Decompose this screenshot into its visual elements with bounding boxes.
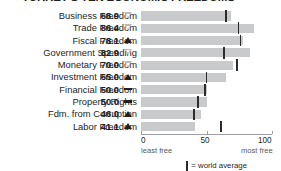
world-average-marker: [197, 96, 199, 108]
score-bar: [141, 11, 231, 20]
row-score-value: 86.4: [99, 22, 119, 34]
chart-row: Business Freedom68.9: [0, 10, 281, 22]
trend-down-icon: [122, 10, 134, 22]
chart-row: Financial Freedom50.0: [0, 84, 281, 96]
world-average-marker: [223, 47, 225, 59]
row-score-value: 78.1: [99, 35, 119, 47]
axis-tick-label: 0: [141, 136, 146, 145]
axis-tick-mark: [141, 131, 142, 135]
world-average-marker: [204, 84, 206, 96]
score-bar: [141, 48, 250, 57]
row-plot-area: [141, 59, 272, 71]
row-score-value: 50.0: [99, 96, 119, 108]
trend-flat-icon: [122, 84, 134, 96]
chart-row: Investment Freedom65.0: [0, 71, 281, 83]
trend-glyph: [124, 49, 132, 55]
world-average-marker: [240, 35, 242, 47]
world-average-marker: [225, 10, 227, 22]
trend-up-icon: [122, 121, 134, 133]
trend-glyph: [124, 12, 132, 18]
trend-glyph: [124, 37, 132, 43]
score-bar: [141, 85, 207, 94]
trend-down-icon: [122, 59, 134, 71]
chart-row: Property Rights50.0: [0, 96, 281, 108]
trend-glyph: [124, 111, 132, 117]
chart-rows: Business Freedom68.9Trade Freedom86.4Fis…: [0, 10, 281, 133]
row-score-value: 50.0: [99, 84, 119, 96]
trend-glyph: [124, 74, 132, 80]
row-plot-area: [141, 108, 272, 120]
chart-row: Government Spending82.9: [0, 47, 281, 59]
row-plot-area: [141, 10, 272, 22]
row-score-value: 65.0: [99, 71, 119, 83]
axis-tick-mark: [207, 131, 208, 135]
chart-title: TURKEY'S TEN ECONOMIC FREEDOMS: [22, 0, 262, 3]
world-average-marker: [236, 59, 238, 71]
trend-glyph: [124, 25, 132, 31]
chart-row: Monetary Freedom70.0: [0, 59, 281, 71]
row-plot-area: [141, 22, 272, 34]
chart-legend: = world average: [186, 156, 247, 167]
chart-row: Fiscal Freedom78.1: [0, 35, 281, 47]
score-bar: [141, 73, 226, 82]
legend-label: = world average: [191, 161, 247, 170]
trend-glyph: [124, 100, 132, 102]
score-bar: [141, 122, 195, 131]
row-plot-area: [141, 96, 272, 108]
axis-tick-label: 50: [201, 136, 210, 145]
chart-row: Fdm. from Corruption46.0: [0, 108, 281, 120]
world-average-marker: [238, 22, 240, 34]
row-score-value: 46.0: [99, 108, 119, 120]
economic-freedoms-chart: TURKEY'S TEN ECONOMIC FREEDOMS Business …: [0, 0, 281, 171]
world-average-marker: [206, 72, 208, 84]
trend-up-icon: [122, 108, 134, 120]
axis-tick-label: 100: [258, 136, 272, 145]
trend-up-icon: [122, 35, 134, 47]
trend-down-icon: [122, 22, 134, 34]
trend-up-icon: [122, 71, 134, 83]
trend-down-icon: [122, 47, 134, 59]
chart-row: Trade Freedom86.4: [0, 22, 281, 34]
score-bar: [141, 36, 243, 45]
trend-flat-icon: [122, 96, 134, 108]
row-plot-area: [141, 71, 272, 83]
world-average-tick-icon: [186, 161, 188, 171]
axis-sublabel: least free: [141, 146, 172, 155]
axis-sublabel: most free: [241, 146, 273, 155]
row-plot-area: [141, 47, 272, 59]
trend-glyph: [124, 88, 132, 90]
row-score-value: 70.0: [99, 59, 119, 71]
row-score-value: 68.9: [99, 10, 119, 22]
trend-glyph: [124, 123, 132, 129]
row-plot-area: [141, 35, 272, 47]
row-plot-area: [141, 84, 272, 96]
row-score-value: 41.1: [99, 121, 119, 133]
axis-tick-mark: [272, 131, 273, 135]
world-average-marker: [193, 109, 195, 121]
trend-glyph: [124, 62, 132, 68]
world-average-marker: [220, 121, 222, 133]
score-bar: [141, 61, 233, 70]
row-score-value: 82.9: [99, 47, 119, 59]
